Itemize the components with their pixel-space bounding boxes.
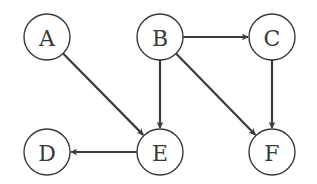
edge-a-e — [63, 53, 143, 134]
node-label: B — [152, 26, 168, 51]
node-c: C — [249, 14, 295, 60]
node-d: D — [24, 129, 70, 175]
edge-b-f — [176, 53, 255, 134]
node-e: E — [137, 129, 183, 175]
node-label: E — [152, 141, 168, 166]
directed-graph: ABCDEF — [0, 0, 317, 184]
node-f: F — [249, 129, 295, 175]
node-label: D — [38, 141, 56, 166]
node-label: F — [264, 141, 279, 166]
node-a: A — [24, 14, 70, 60]
node-b: B — [137, 14, 183, 60]
node-label: A — [38, 26, 56, 51]
node-label: C — [264, 26, 281, 51]
